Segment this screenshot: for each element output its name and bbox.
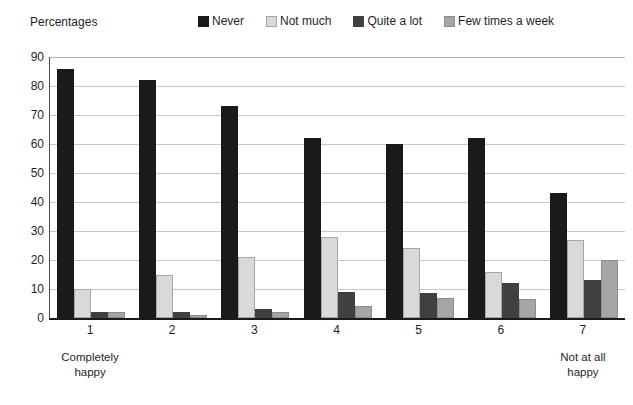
bar-group [132, 57, 214, 318]
bar[interactable] [502, 283, 519, 318]
y-axis-tick-label: 40 [31, 196, 44, 208]
y-axis-tick-label: 60 [31, 138, 44, 150]
y-axis-tick-label: 70 [31, 109, 44, 121]
bar[interactable] [584, 280, 601, 318]
x-axis-tick-label: 2 [131, 322, 213, 342]
bar[interactable] [550, 193, 567, 318]
x-axis-caption [131, 350, 213, 384]
y-axis-tick-label: 10 [31, 283, 44, 295]
x-axis-tick-label: 4 [295, 322, 377, 342]
x-axis-caption-line: Not at all [542, 350, 624, 365]
x-axis-tick-label: 1 [49, 322, 131, 342]
x-axis-caption-line: happy [49, 365, 131, 380]
plot-area-wrapper: 9080706050403020100 1234567 Completelyha… [0, 0, 633, 405]
bar[interactable] [355, 306, 372, 318]
bar[interactable] [221, 106, 238, 318]
y-axis-tick-label: 20 [31, 254, 44, 266]
bar[interactable] [74, 289, 91, 318]
bar[interactable] [57, 69, 74, 318]
bar[interactable] [156, 275, 173, 319]
bar[interactable] [108, 312, 125, 318]
bar[interactable] [567, 240, 584, 318]
bar[interactable] [321, 237, 338, 318]
bar[interactable] [304, 138, 321, 318]
bar[interactable] [139, 80, 156, 318]
x-axis-caption-line: happy [542, 365, 624, 380]
x-axis-caption: Completelyhappy [49, 350, 131, 384]
y-axis-tick-label: 80 [31, 80, 44, 92]
bar-group [543, 57, 625, 318]
bar[interactable] [485, 272, 502, 318]
bar[interactable] [272, 312, 289, 318]
y-axis-tick-label: 50 [31, 167, 44, 179]
x-axis-tick-label: 5 [378, 322, 460, 342]
x-axis-caption-line: Completely [49, 350, 131, 365]
bar[interactable] [173, 312, 190, 318]
bar-group [50, 57, 132, 318]
bar[interactable] [238, 257, 255, 318]
bars-layer [50, 57, 625, 318]
y-axis-tick-label: 0 [37, 312, 44, 324]
bar-group [461, 57, 543, 318]
y-axis-tick-label: 90 [31, 51, 44, 63]
x-axis-endpoint-captions: CompletelyhappyNot at allhappy [49, 350, 624, 384]
x-axis-caption [378, 350, 460, 384]
bar[interactable] [437, 298, 454, 318]
bar-group [296, 57, 378, 318]
bar[interactable] [386, 144, 403, 318]
bar[interactable] [403, 248, 420, 318]
y-axis-tick-label: 30 [31, 225, 44, 237]
x-axis-caption [295, 350, 377, 384]
bar-group [214, 57, 296, 318]
y-axis-tick-labels: 9080706050403020100 [14, 50, 44, 318]
bar[interactable] [468, 138, 485, 318]
bar[interactable] [338, 292, 355, 318]
bar[interactable] [255, 309, 272, 318]
x-axis-tick-label: 3 [213, 322, 295, 342]
bar[interactable] [420, 293, 437, 318]
bar[interactable] [519, 299, 536, 318]
bar[interactable] [601, 260, 618, 318]
x-axis-tick-label: 6 [460, 322, 542, 342]
plot-area [49, 57, 625, 320]
x-axis-caption [213, 350, 295, 384]
bar[interactable] [190, 315, 207, 318]
x-axis-tick-label: 7 [542, 322, 624, 342]
x-axis-caption: Not at allhappy [542, 350, 624, 384]
x-axis-caption [460, 350, 542, 384]
bar-group [379, 57, 461, 318]
x-axis-tick-labels: 1234567 [49, 322, 624, 342]
bar-chart: Percentages NeverNot muchQuite a lotFew … [0, 0, 633, 405]
bar[interactable] [91, 312, 108, 318]
